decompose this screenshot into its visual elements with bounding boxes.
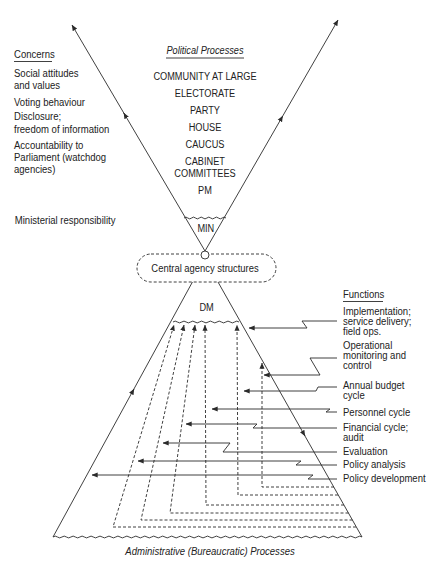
- central-agency-label: Central agency structures: [151, 261, 258, 274]
- feedback-line: [170, 325, 349, 513]
- concern-item: and values: [14, 78, 60, 91]
- junction-circle: [201, 251, 209, 259]
- base-wavy-line: [53, 536, 362, 538]
- political-level: COMMUNITY AT LARGE: [153, 70, 256, 82]
- political-level: CABINET: [185, 155, 225, 167]
- function-arrow-financial: [186, 424, 337, 428]
- function-arrow-implementation: [249, 321, 337, 328]
- political-level: HOUSE: [189, 121, 222, 133]
- feedback-line: [237, 325, 338, 495]
- ministerial-responsibility-label: Ministerial responsibility: [15, 213, 116, 226]
- functions-column: Functions Implementation; service delive…: [343, 287, 426, 484]
- political-level: PARTY: [190, 104, 220, 116]
- arrowhead-icon: [124, 113, 126, 116]
- feedback-line: [113, 325, 356, 527]
- function-item: control: [343, 358, 372, 371]
- dm-wavy-line: [173, 321, 239, 323]
- political-level: CAUCUS: [186, 138, 225, 150]
- function-item: field ops.: [343, 324, 381, 337]
- function-item: Evaluation: [343, 444, 388, 457]
- political-level: PM: [198, 184, 212, 196]
- arrowhead-icon: [133, 389, 134, 392]
- function-item: Personnel cycle: [343, 405, 410, 418]
- function-arrow-personnel: [212, 409, 337, 412]
- min-label: MIN: [197, 222, 214, 234]
- concerns-heading: Concerns: [14, 47, 55, 60]
- function-arrow-operational: [264, 358, 337, 375]
- political-processes-heading: Political Processes: [166, 44, 243, 56]
- concern-item: agencies): [14, 162, 55, 175]
- functions-heading: Functions: [343, 287, 384, 300]
- political-administrative-diagram: Central agency structures Concerns Socia…: [0, 0, 435, 563]
- triangle-right-edge: [205, 259, 362, 537]
- concern-item: Voting behaviour: [14, 95, 85, 108]
- function-item: Policy development: [343, 471, 426, 484]
- function-item: audit: [343, 430, 364, 443]
- function-arrow-budget: [244, 387, 337, 391]
- function-item: cycle: [343, 388, 365, 401]
- min-wavy-line: [184, 217, 226, 219]
- dm-label: DM: [199, 301, 213, 313]
- political-level: ELECTORATE: [175, 87, 236, 99]
- feedback-line: [205, 325, 344, 505]
- political-level: COMMITTEES: [174, 167, 235, 179]
- triangle-left-edge: [53, 259, 205, 537]
- function-arrow-evaluation: [163, 443, 337, 452]
- concern-item: Disclosure;: [14, 109, 61, 122]
- function-item: Policy analysis: [343, 457, 405, 470]
- concern-item: freedom of information: [14, 122, 109, 135]
- administrative-processes-label: Administrative (Bureaucratic) Processes: [124, 544, 295, 557]
